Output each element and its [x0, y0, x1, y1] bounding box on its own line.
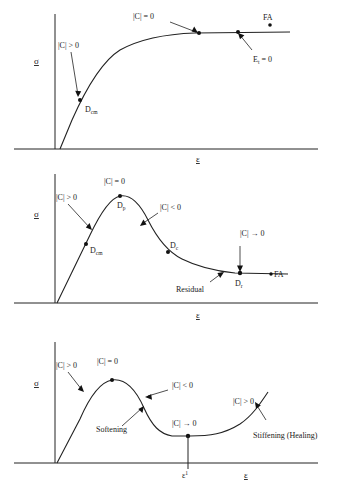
arrowhead-residual-2: [217, 272, 224, 278]
annotation-stiffening-healing-3: Stiffening (Healing): [253, 431, 318, 440]
marker-dc-2: [166, 250, 170, 254]
chart-1: σ ε |C| > 0 Dcm |C| = 0 Et = 0 FA: [0, 0, 346, 166]
annotation-dc-2: Dc: [170, 241, 179, 251]
annotation-dp-2: Dp: [117, 201, 126, 211]
arrowhead-c-lt-0-3: [145, 394, 152, 400]
y-axis-label-1: σ: [34, 56, 39, 66]
annotation-c-gt-0-3: |C| > 0: [56, 361, 77, 370]
annotation-dcm-1: Dcm: [85, 105, 98, 115]
x-axis-label-2: ε: [196, 310, 200, 320]
annotation-c-eq-0-1: |C| = 0: [133, 12, 154, 21]
arrowhead-c-gt-0: [75, 91, 81, 97]
annotation-c-eq-0-2: |C| = 0: [104, 177, 125, 186]
arrowhead-et-0: [238, 33, 244, 39]
marker-dp-2: [118, 194, 122, 198]
figure-container: σ ε |C| > 0 Dcm |C| = 0 Et = 0 FA σ ε |C…: [0, 0, 346, 500]
annotation-c-eq-0-3: |C| = 0: [97, 357, 118, 366]
marker-dcm-2: [84, 242, 88, 246]
annotation-dr-2: Dr: [235, 279, 243, 289]
annotation-c-to-0-3: |C| → 0: [172, 419, 197, 428]
marker-c-eq-0: [197, 31, 201, 35]
arrowhead-c-to-0-2: [237, 266, 243, 272]
arrowhead-softening-3: [138, 406, 144, 413]
leader-softening-3: [122, 408, 142, 426]
x-tick-label-epsilon-1: ε1: [182, 470, 188, 480]
marker-fa-2: [269, 272, 272, 275]
marker-dcm: [78, 98, 82, 102]
annotation-c-gt-0-2: |C| > 0: [56, 193, 77, 202]
y-axis-label-2: σ: [34, 209, 39, 219]
annotation-softening-3: Softening: [96, 425, 127, 434]
leader-c-gt-0: [71, 52, 78, 95]
annotation-dcm-2: Dcm: [90, 246, 103, 256]
annotation-c-lt-0-3: |C| < 0: [172, 381, 193, 390]
y-axis-label-3: σ: [34, 378, 39, 388]
annotation-c-lt-0-2: |C| < 0: [160, 203, 181, 212]
annotation-fa-2: FA: [274, 270, 284, 279]
annotation-c-gt-0-1: |C| > 0: [58, 41, 79, 50]
annotation-et-0-1: Et = 0: [253, 55, 272, 65]
arrowhead-c-eq-0: [192, 27, 198, 33]
annotation-c-to-0-2: |C| → 0: [240, 229, 265, 238]
curve-hardening-saturation: [60, 32, 290, 149]
chart-2: σ ε |C| > 0 |C| = 0 |C| < 0 |C| → 0 Dcm …: [0, 160, 346, 326]
leader-c-gt-0-2: [68, 204, 90, 228]
marker-et-0: [236, 30, 240, 34]
arrowhead-c-lt-0-2: [140, 220, 147, 226]
annotation-c-gt-0-b-3: |C| > 0: [233, 397, 254, 406]
x-axis-label-3: ε: [244, 470, 248, 480]
chart-3: σ ε1 ε |C| > 0 |C| = 0 |C| < 0 |C| → 0 |…: [0, 324, 346, 500]
marker-c-eq-0-3: [110, 378, 114, 382]
annotation-fa-1: FA: [263, 13, 273, 22]
marker-fa: [268, 23, 272, 27]
annotation-residual-2: Residual: [176, 285, 205, 294]
curve-softening-stiffening: [57, 380, 268, 463]
